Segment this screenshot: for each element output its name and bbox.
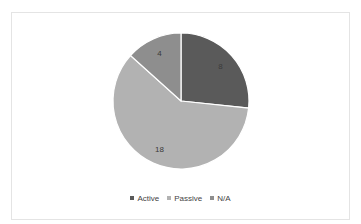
legend-swatch-active bbox=[130, 196, 134, 200]
data-label-na: 4 bbox=[157, 49, 162, 58]
pie-slice-active bbox=[181, 33, 249, 108]
pie-slices bbox=[113, 33, 249, 169]
legend: Active Passive N/A bbox=[0, 192, 361, 204]
legend-item-active: Active bbox=[130, 194, 159, 203]
legend-label-passive: Passive bbox=[174, 194, 202, 203]
legend-swatch-na bbox=[210, 196, 214, 200]
legend-label-na: N/A bbox=[217, 194, 230, 203]
pie-chart: 8184 bbox=[0, 0, 361, 224]
legend-swatch-passive bbox=[167, 196, 171, 200]
legend-label-active: Active bbox=[137, 194, 159, 203]
data-label-passive: 18 bbox=[155, 145, 164, 154]
data-label-active: 8 bbox=[218, 62, 223, 71]
legend-item-passive: Passive bbox=[167, 194, 202, 203]
legend-item-na: N/A bbox=[210, 194, 230, 203]
